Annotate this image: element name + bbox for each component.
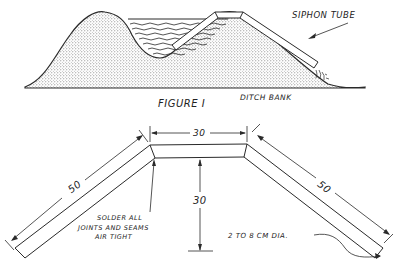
left-arm-length-value: 50 — [66, 178, 84, 195]
right-arm-length-value: 50 — [316, 178, 334, 195]
diameter-note: 2 TO 8 CM DIA. — [228, 232, 288, 240]
siphon-tube-leader — [308, 23, 348, 39]
siphon-tube-label: SIPHON TUBE — [292, 10, 355, 20]
height-value: 30 — [193, 195, 207, 206]
solder-note-line-3: AIR TIGHT — [94, 233, 133, 241]
figure-2-siphon-dimensions: 30 50 50 30 — [5, 124, 393, 259]
figure-1-ditch-cross-section: SIPHON TUBE DITCH BANK FIGURE I — [25, 10, 365, 109]
solder-note-leader — [150, 159, 156, 212]
solder-note-line-1: SOLDER ALL — [97, 214, 142, 222]
diagram-canvas: SIPHON TUBE DITCH BANK FIGURE I 30 — [0, 0, 394, 267]
top-width-value: 30 — [193, 128, 205, 138]
solder-note-line-2: JOINTS AND SEAMS — [76, 224, 149, 232]
ditch-bank-label: DITCH BANK — [240, 93, 292, 102]
figure-1-caption: FIGURE I — [158, 98, 205, 109]
